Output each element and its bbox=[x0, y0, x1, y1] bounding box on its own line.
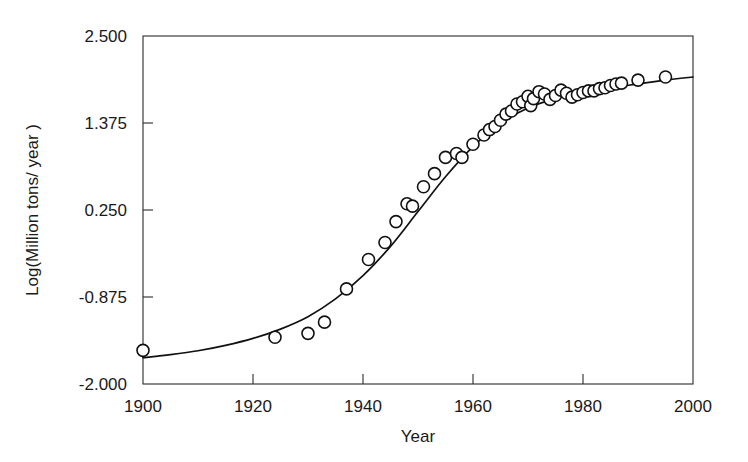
data-point-group bbox=[137, 71, 672, 356]
x-axis-title: Year bbox=[401, 427, 436, 446]
data-point-marker bbox=[269, 331, 281, 343]
x-tick-label: 1940 bbox=[344, 397, 382, 416]
data-point-marker bbox=[407, 200, 419, 212]
data-point-marker bbox=[418, 181, 430, 193]
x-tick-label: 1920 bbox=[234, 397, 272, 416]
y-tick-label: -0.875 bbox=[79, 288, 127, 307]
y-axis-title: Log(Million tons/ year ) bbox=[23, 124, 42, 296]
x-tick-label: 1980 bbox=[564, 397, 602, 416]
data-point-marker bbox=[440, 151, 452, 163]
data-point-marker bbox=[632, 74, 644, 86]
x-tick-label: 1960 bbox=[454, 397, 492, 416]
y-tick-label: 1.375 bbox=[84, 114, 127, 133]
x-tick-label: 1900 bbox=[124, 397, 162, 416]
data-point-marker bbox=[660, 71, 672, 83]
data-point-marker bbox=[302, 327, 314, 339]
data-point-marker bbox=[467, 138, 479, 150]
y-axis-tick-marks bbox=[143, 123, 153, 297]
data-point-marker bbox=[390, 216, 402, 228]
data-point-marker bbox=[363, 253, 375, 265]
data-point-marker bbox=[379, 236, 391, 248]
data-point-marker bbox=[429, 168, 441, 180]
y-axis-tick-labels: -2.000-0.8750.2501.3752.500 bbox=[79, 27, 127, 394]
y-tick-label: 0.250 bbox=[84, 201, 127, 220]
data-point-marker bbox=[341, 283, 353, 295]
data-point-marker bbox=[616, 77, 628, 89]
y-tick-label: 2.500 bbox=[84, 27, 127, 46]
y-tick-label: -2.000 bbox=[79, 375, 127, 394]
data-point-marker bbox=[319, 316, 331, 328]
x-tick-label: 2000 bbox=[674, 397, 712, 416]
data-point-marker bbox=[456, 151, 468, 163]
fit-curve-line bbox=[143, 77, 693, 358]
figure-container: -2.000-0.8750.2501.3752.500 190019201940… bbox=[0, 0, 748, 462]
x-axis-tick-labels: 190019201940196019802000 bbox=[124, 397, 712, 416]
x-axis-tick-marks bbox=[253, 374, 583, 384]
data-point-marker bbox=[137, 344, 149, 356]
logistic-growth-chart: -2.000-0.8750.2501.3752.500 190019201940… bbox=[0, 0, 748, 462]
